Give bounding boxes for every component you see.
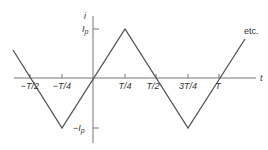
svg-text:−T/2: −T/2 <box>21 81 39 91</box>
ip-label: Ip <box>82 24 89 36</box>
svg-text:T: T <box>215 81 222 91</box>
x-ticks <box>30 74 219 78</box>
y-axis-label: i <box>84 11 87 21</box>
triangle-wave-diagram: i Ip −Ip t −T/2 −T/4 T/4 T/2 3T/4 T etc. <box>0 0 268 150</box>
etc-annotation: etc. <box>244 26 259 36</box>
svg-text:3T/4: 3T/4 <box>179 81 197 91</box>
svg-text:−T/4: −T/4 <box>53 81 71 91</box>
neg-ip-label: −Ip <box>73 123 85 135</box>
x-axis-label: t <box>260 73 263 83</box>
x-tick-labels: −T/2 −T/4 T/4 T/2 3T/4 T <box>21 81 222 91</box>
svg-text:T/4: T/4 <box>118 81 131 91</box>
svg-text:T/2: T/2 <box>146 81 159 91</box>
